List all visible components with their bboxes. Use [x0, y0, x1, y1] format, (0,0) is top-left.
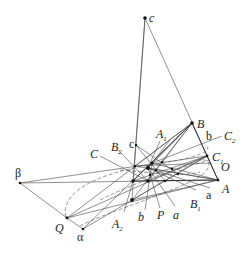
label-b-upright: b — [206, 129, 212, 143]
labels: c c B b C2 C1 O A a B1 a P b A2 α Q β C … — [15, 11, 236, 244]
label-B1: B1 — [190, 197, 201, 213]
label-B2: B2 — [111, 140, 122, 156]
label-a-upright: a — [206, 188, 212, 202]
point-center-4 — [151, 162, 154, 165]
point-center-9 — [177, 173, 179, 175]
point-center-1 — [131, 179, 134, 182]
label-alpha: α — [77, 230, 84, 244]
label-O: O — [221, 160, 230, 174]
point-Q — [66, 217, 69, 220]
point-center-6 — [161, 161, 163, 163]
label-C2: C2 — [224, 129, 236, 145]
label-P: P — [156, 208, 165, 222]
label-B: B — [197, 117, 205, 131]
point-A2 — [130, 198, 134, 202]
label-a-italic: a — [173, 208, 179, 222]
point-center-3 — [146, 166, 150, 170]
point-center-2 — [146, 179, 149, 182]
point-center-8 — [171, 168, 173, 170]
point-center-5 — [134, 165, 136, 167]
label-A1: A1 — [155, 127, 167, 143]
point-center-7 — [155, 169, 157, 171]
point-A — [217, 179, 220, 182]
point-beta — [19, 182, 22, 185]
label-A2: A2 — [111, 217, 123, 233]
label-b-italic: b — [138, 210, 144, 224]
point-center-10 — [164, 180, 166, 182]
label-Q: Q — [55, 221, 64, 235]
label-beta: β — [15, 166, 21, 180]
point-C1 — [206, 155, 209, 158]
label-c-small: c — [129, 137, 134, 151]
label-C: C — [90, 147, 99, 161]
point-center-11 — [149, 174, 151, 176]
point-B — [190, 121, 194, 125]
label-c-top: c — [149, 11, 155, 25]
label-A: A — [221, 182, 230, 196]
geometry-diagram: c c B b C2 C1 O A a B1 a P b A2 α Q β C … — [0, 0, 251, 254]
point-c — [143, 16, 147, 20]
point-c-small — [135, 144, 137, 146]
